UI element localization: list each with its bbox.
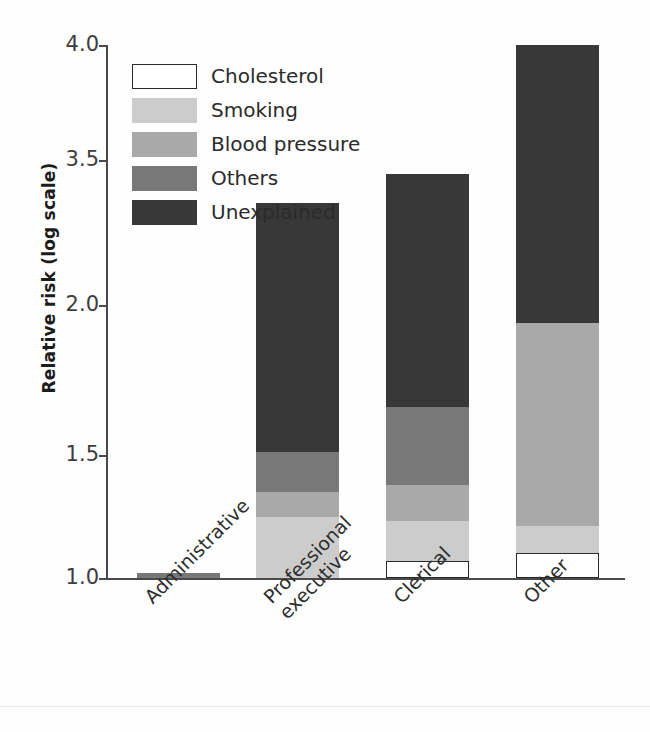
legend-item-blood-pressure[interactable]: Blood pressure — [132, 130, 360, 158]
bar-other[interactable] — [516, 45, 599, 578]
legend-swatch-others — [132, 166, 197, 191]
legend-item-others[interactable]: Others — [132, 164, 360, 192]
bar-segment-unexplained[interactable] — [386, 174, 469, 407]
y-tick-label: 1.0 — [41, 567, 99, 588]
bar-segment-blood-pressure[interactable] — [256, 492, 339, 517]
bar-segment-unexplained[interactable] — [516, 45, 599, 323]
bar-segment-others[interactable] — [256, 452, 339, 492]
legend-label: Smoking — [211, 100, 298, 120]
y-tick-label: 4.0 — [41, 34, 99, 55]
legend-label: Cholesterol — [211, 66, 324, 86]
legend-swatch-blood-pressure — [132, 132, 197, 157]
legend-swatch-unexplained — [132, 200, 197, 225]
legend-label: Others — [211, 168, 278, 188]
legend-label: Blood pressure — [211, 134, 360, 154]
bar-segment-blood-pressure[interactable] — [516, 323, 599, 526]
y-tick-mark — [99, 160, 106, 162]
y-tick-mark — [99, 578, 106, 580]
y-tick-label: 1.5 — [41, 444, 99, 465]
bar-clerical[interactable] — [386, 139, 469, 578]
legend-swatch-smoking — [132, 98, 197, 123]
bar-segment-others[interactable] — [386, 407, 469, 485]
chart-legend: CholesterolSmokingBlood pressureOthersUn… — [132, 62, 360, 232]
legend-label: Unexplained — [211, 202, 336, 222]
legend-item-cholesterol[interactable]: Cholesterol — [132, 62, 360, 90]
y-tick-mark — [99, 305, 106, 307]
figure-canvas: Relative risk (log scale) 4.03.52.01.51.… — [0, 0, 650, 732]
bar-segment-smoking[interactable] — [516, 526, 599, 553]
legend-item-smoking[interactable]: Smoking — [132, 96, 360, 124]
y-tick-mark — [99, 455, 106, 457]
y-tick-label: 3.5 — [41, 149, 99, 170]
footer-cropped-caption — [305, 722, 645, 732]
y-axis-title: Relative risk (log scale) — [39, 153, 59, 403]
legend-swatch-cholesterol — [132, 64, 197, 89]
bar-segment-blood-pressure[interactable] — [386, 485, 469, 522]
footer-divider — [0, 706, 650, 707]
y-tick-label: 2.0 — [41, 294, 99, 315]
y-tick-mark — [99, 45, 106, 47]
legend-item-unexplained[interactable]: Unexplained — [132, 198, 360, 226]
bar-segment-unexplained[interactable] — [256, 203, 339, 452]
